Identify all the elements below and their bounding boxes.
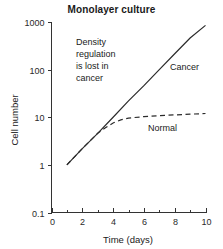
y-axis-tick-labels: 0.11101001000 — [24, 18, 44, 219]
x-tick-label: 4 — [111, 217, 116, 227]
axes-group — [52, 22, 206, 213]
x-tick-label: 2 — [80, 217, 85, 227]
x-tick-label: 10 — [201, 217, 211, 227]
annotation-line-1: Density — [76, 37, 107, 47]
series-line-normal — [67, 113, 206, 164]
y-tick-label: 10 — [34, 113, 44, 123]
x-tick-label: 0 — [50, 217, 55, 227]
chart-plot-area: 0.11101001000 0246810 Time (days) Cell n… — [0, 0, 223, 249]
series-label-normal: Normal — [148, 123, 177, 133]
x-tick-label: 8 — [173, 217, 178, 227]
annotation-line-3: is lost in — [76, 61, 109, 71]
y-tick-label: 1000 — [24, 18, 44, 28]
y-axis-ticks — [48, 23, 52, 214]
x-axis-ticks — [53, 208, 207, 213]
annotation-density-regulation: Density regulation is lost in cancer — [76, 37, 116, 83]
y-axis-title: Cell number — [9, 94, 20, 145]
y-tick-label: 100 — [29, 66, 44, 76]
annotation-line-2: regulation — [76, 49, 116, 59]
y-tick-label: 1 — [39, 161, 44, 171]
series-label-cancer: Cancer — [170, 62, 199, 72]
x-tick-label: 6 — [142, 217, 147, 227]
chart-figure: Monolayer culture 0.11101001000 0246810 … — [0, 0, 223, 249]
x-axis-tick-labels: 0246810 — [50, 217, 212, 227]
annotation-line-4: cancer — [76, 73, 103, 83]
x-axis-title: Time (days) — [103, 234, 153, 245]
y-tick-label: 0.1 — [32, 209, 45, 219]
